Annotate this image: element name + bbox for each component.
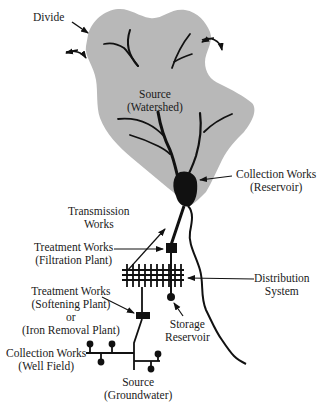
label-collection-reservoir: Collection Works (Reservoir) bbox=[236, 168, 316, 194]
label-divide: Divide bbox=[33, 11, 64, 24]
filtration-plant bbox=[166, 243, 177, 253]
label-transmission-works: Transmission Works bbox=[68, 205, 130, 231]
label-source-groundwater: Source (Groundwater) bbox=[104, 376, 172, 402]
label-source-watershed: Source (Watershed) bbox=[127, 88, 183, 114]
label-storage-reservoir: Storage Reservoir bbox=[165, 318, 210, 344]
transmission-pipe bbox=[171, 206, 184, 245]
softening-plant bbox=[136, 312, 150, 319]
reservoir-shape bbox=[173, 171, 197, 206]
distribution-grid bbox=[122, 264, 184, 287]
label-treatment-softening: Treatment Works (Softening Plant) or (Ir… bbox=[22, 285, 120, 337]
water-supply-diagram: Divide Source (Watershed) Collection Wor… bbox=[0, 0, 322, 404]
label-treatment-filtration: Treatment Works (Filtration Plant) bbox=[34, 241, 113, 267]
storage-reservoir bbox=[167, 293, 175, 301]
label-collection-wellfield: Collection Works (Well Field) bbox=[6, 347, 86, 373]
diagram-graphics bbox=[0, 0, 322, 404]
well-field bbox=[86, 342, 161, 372]
label-distribution-system: Distribution System bbox=[254, 272, 310, 298]
